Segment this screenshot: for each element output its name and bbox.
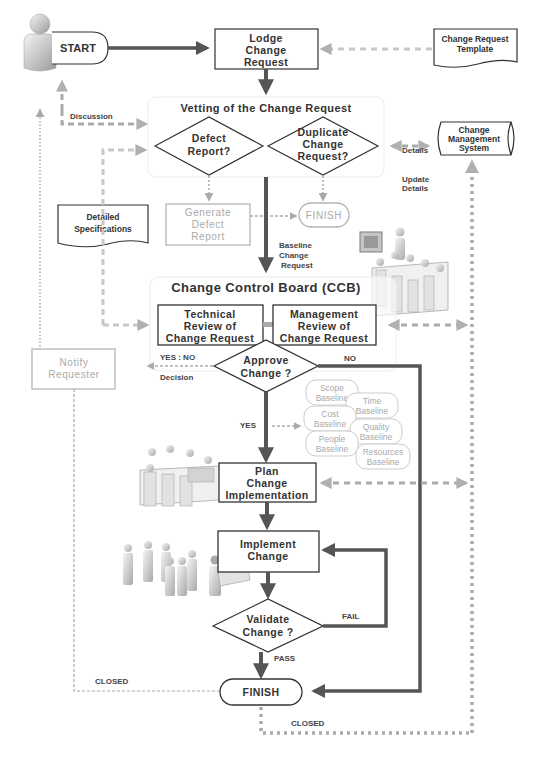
svg-text:Report: Report xyxy=(191,231,225,242)
notify-requester-box: Notify Requester xyxy=(32,349,115,389)
change-request-template-document: Change Request Template xyxy=(434,29,517,67)
plan-change-implementation-box: Plan Change Implementation xyxy=(219,463,316,502)
svg-text:FINISH: FINISH xyxy=(306,210,342,221)
baseline-change-request-label-3: Request xyxy=(281,261,313,270)
svg-text:Baseline: Baseline xyxy=(356,406,389,416)
svg-text:Time: Time xyxy=(363,396,382,406)
svg-text:Cost: Cost xyxy=(321,409,339,419)
svg-text:Change: Change xyxy=(248,550,289,562)
update-details-label-2: Details xyxy=(402,184,429,193)
vetting-title: Vetting of the Change Request xyxy=(180,102,351,114)
closed-left-label: CLOSED xyxy=(95,677,129,686)
svg-text:Baseline: Baseline xyxy=(367,457,400,467)
details-label: Details xyxy=(402,146,429,155)
svg-text:System: System xyxy=(459,143,490,153)
svg-text:Implementation: Implementation xyxy=(225,489,308,501)
svg-text:Lodge: Lodge xyxy=(249,32,283,44)
pass-label: PASS xyxy=(274,654,296,663)
svg-text:Change Request: Change Request xyxy=(441,34,508,44)
svg-text:Report?: Report? xyxy=(187,145,230,157)
implement-change-box: Implement Change xyxy=(218,531,319,572)
lodge-change-request-box: Lodge Change Request xyxy=(215,29,318,69)
svg-text:FINISH: FINISH xyxy=(243,686,280,698)
svg-text:Validate: Validate xyxy=(247,613,290,625)
discussion-label: Discussion xyxy=(70,112,113,121)
resources-baseline: Resources Baseline xyxy=(356,444,410,469)
svg-text:Plan: Plan xyxy=(255,465,279,477)
svg-text:Change: Change xyxy=(247,477,288,489)
closed-bottom-label: CLOSED xyxy=(291,719,325,728)
svg-text:Implement: Implement xyxy=(240,538,296,550)
baseline-change-request-label-2: Change xyxy=(279,251,309,260)
svg-text:Generate: Generate xyxy=(185,207,232,218)
svg-text:Defect: Defect xyxy=(192,132,227,144)
update-details-label-1: Update xyxy=(402,175,430,184)
svg-text:Template: Template xyxy=(457,44,494,54)
svg-text:Review of: Review of xyxy=(184,320,237,332)
svg-text:Change: Change xyxy=(246,44,287,56)
svg-text:Defect: Defect xyxy=(192,219,225,230)
change-management-system-database: Change Management System xyxy=(438,122,514,155)
svg-text:Review of: Review of xyxy=(298,320,351,332)
validate-change-decision: Validate Change ? xyxy=(213,599,323,652)
finish-small-terminal: FINISH xyxy=(299,203,349,227)
management-review-box: Management Review of Change Request xyxy=(273,305,376,345)
svg-text:Technical: Technical xyxy=(184,308,235,320)
svg-text:Request: Request xyxy=(244,56,288,68)
svg-text:Quality: Quality xyxy=(363,422,390,432)
generate-defect-report-box: Generate Defect Report xyxy=(166,204,250,245)
closed-to-notify-dashed-line xyxy=(74,380,220,691)
svg-text:Change: Change xyxy=(303,138,344,150)
people-baseline: People Baseline xyxy=(306,431,358,456)
start-terminal: START xyxy=(52,32,108,64)
yes-no-label: YES : NO xyxy=(160,353,195,362)
svg-text:Notify: Notify xyxy=(59,357,88,368)
svg-text:Baseline: Baseline xyxy=(360,432,393,442)
fail-label: FAIL xyxy=(342,612,359,621)
technical-review-box: Technical Review of Change Request xyxy=(158,305,263,345)
change-request-flow-diagram: START Discussion Lodge Change Request Ch… xyxy=(0,0,539,757)
ccb-title: Change Control Board (CCB) xyxy=(171,280,361,295)
start-label: START xyxy=(60,42,96,54)
svg-text:Baseline: Baseline xyxy=(316,393,349,403)
baseline-change-request-label-1: Baseline xyxy=(279,241,312,250)
svg-text:Duplicate: Duplicate xyxy=(298,126,349,138)
svg-text:Change ?: Change ? xyxy=(242,626,293,638)
baseline-bubbles: Scope Baseline Time Baseline Cost Baseli… xyxy=(304,380,410,469)
svg-text:Baseline: Baseline xyxy=(316,444,349,454)
person-icon xyxy=(24,14,56,71)
svg-text:Change Request: Change Request xyxy=(280,332,369,344)
cost-baseline: Cost Baseline xyxy=(304,406,356,431)
technical-management-connector xyxy=(263,322,273,327)
svg-text:Request?: Request? xyxy=(297,150,348,162)
svg-text:Approve: Approve xyxy=(243,354,288,366)
svg-text:Management: Management xyxy=(290,308,358,320)
planning-team-illustration xyxy=(140,445,220,506)
yes-label: YES xyxy=(240,421,257,430)
svg-text:Change ?: Change ? xyxy=(240,367,291,379)
finish-terminal: FINISH xyxy=(220,679,302,705)
decision-label: Decision xyxy=(160,373,193,382)
svg-text:Baseline: Baseline xyxy=(314,419,347,429)
no-label: NO xyxy=(344,354,356,363)
svg-text:People: People xyxy=(319,434,346,444)
svg-text:Scope: Scope xyxy=(320,383,344,393)
svg-text:Resources: Resources xyxy=(363,447,404,457)
svg-text:Requester: Requester xyxy=(48,369,100,380)
svg-text:Change Request: Change Request xyxy=(166,332,255,344)
